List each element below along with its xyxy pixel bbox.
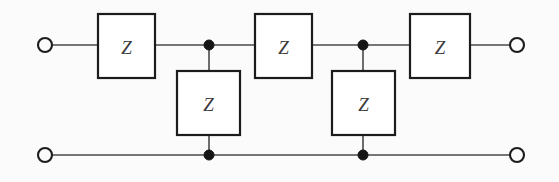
component-shunt-impedance-2[interactable]: Z (332, 71, 395, 135)
junction-top-2 (358, 40, 368, 50)
junction-top-1 (204, 40, 214, 50)
circuit-schematic: Z Z Z Z Z (0, 0, 559, 182)
component-series-impedance-3[interactable]: Z (410, 14, 470, 78)
junction-bottom-2 (358, 150, 368, 160)
terminal-bottom-left[interactable] (38, 148, 52, 162)
terminal-bottom-right[interactable] (510, 148, 524, 162)
component-shunt-impedance-1[interactable]: Z (177, 71, 240, 135)
component-series-impedance-2[interactable]: Z (255, 14, 312, 78)
impedance-label: Z (278, 37, 289, 58)
component-series-impedance-1[interactable]: Z (98, 14, 155, 78)
impedance-label: Z (435, 37, 446, 58)
impedance-label: Z (358, 94, 369, 115)
circuit-diagram-canvas: Z Z Z Z Z (0, 0, 559, 182)
impedance-label: Z (203, 94, 214, 115)
impedance-label: Z (121, 37, 132, 58)
terminal-top-right[interactable] (510, 38, 524, 52)
junction-bottom-1 (204, 150, 214, 160)
terminal-top-left[interactable] (38, 38, 52, 52)
